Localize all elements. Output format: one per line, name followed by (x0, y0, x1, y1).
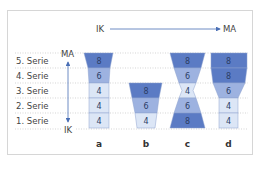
cell-d-2-value: 4 (226, 102, 231, 111)
column-label-b: b (143, 139, 150, 149)
row-label-5: 5. Serie (16, 56, 49, 66)
axis-top-label: MA (61, 49, 74, 59)
column-label-a: a (96, 139, 102, 149)
training-load-diagram: IK MA 5. Serie 4. Serie 3. Serie 2. Seri… (0, 0, 261, 169)
row-label-1: 1. Serie (16, 116, 49, 126)
column-label-d: d (225, 139, 231, 149)
cell-c-3-value: 4 (185, 87, 190, 96)
axis-bottom-label: IK (64, 125, 73, 135)
cell-c-1-value: 8 (185, 117, 190, 126)
cell-d-1-value: 4 (226, 117, 231, 126)
cell-c-5-value: 8 (185, 57, 190, 66)
cell-b-2-value: 6 (143, 102, 148, 111)
cell-a-4-value: 6 (96, 72, 101, 81)
cell-b-3-value: 8 (143, 87, 148, 96)
cell-c-2-value: 6 (185, 102, 190, 111)
cell-b-1-value: 4 (143, 117, 148, 126)
cell-d-3-value: 6 (226, 87, 231, 96)
row-label-2: 2. Serie (16, 101, 49, 111)
cell-d-4-value: 8 (226, 72, 231, 81)
header-start-label: IK (96, 24, 105, 34)
cell-a-5-value: 8 (96, 57, 101, 66)
column-label-c: c (185, 139, 190, 149)
cell-a-3-value: 4 (96, 87, 101, 96)
cell-d-5-value: 8 (226, 57, 231, 66)
cell-c-4-value: 6 (185, 72, 190, 81)
cell-a-1-value: 4 (96, 117, 101, 126)
header-end-label: MA (223, 24, 236, 34)
row-label-4: 4. Serie (16, 71, 49, 81)
cell-a-2-value: 4 (96, 102, 101, 111)
row-label-3: 3. Serie (16, 86, 49, 96)
